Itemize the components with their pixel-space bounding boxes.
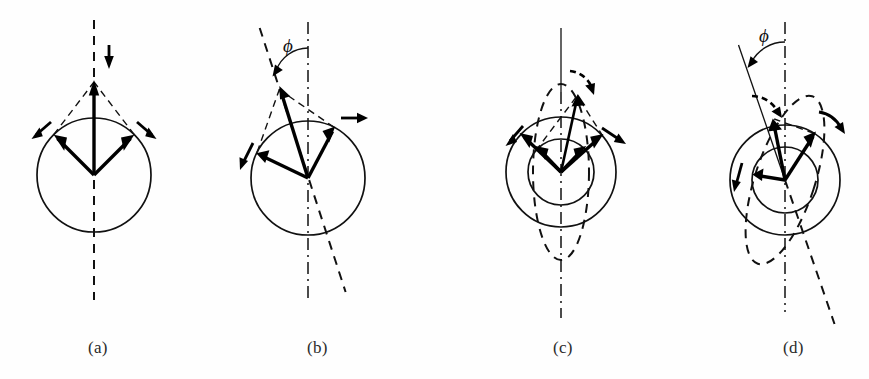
panel-b-phi-angle-label: ϕ	[283, 35, 293, 56]
panel-a	[32, 20, 157, 300]
panel-b-resultant-arrowhead	[279, 86, 290, 100]
panel-b-left-construction-line	[257, 90, 279, 153]
panel-a-right-construction-line	[94, 82, 134, 135]
panel-b-left-component-arrowhead	[256, 150, 269, 163]
panel-b-caption: (b)	[307, 338, 328, 358]
panel-a-left-construction-line	[54, 82, 94, 135]
panel-a-caption: (a)	[88, 338, 108, 358]
vector-model-figure: ϕ	[0, 0, 869, 379]
panel-b-right-component-arrowhead	[323, 127, 336, 143]
panel-d-left-precession-arrowhead	[732, 180, 741, 193]
panel-c-right-precession-arrowhead	[614, 134, 626, 145]
panel-a-resultant-arrowhead	[89, 80, 99, 96]
figure-root: ϕ	[0, 0, 869, 379]
panel-b: ϕ	[240, 22, 369, 300]
panel-d-resultant-precession-arrowhead	[772, 107, 783, 119]
panel-d-caption: (d)	[783, 338, 804, 358]
panel-d: ϕ	[729, 22, 845, 324]
panel-b-left-precession-arrowhead	[240, 157, 249, 170]
panel-d-resultant-precession-arrow	[752, 96, 778, 112]
panel-a-resultant-precession-arrowhead	[104, 56, 114, 69]
panel-d-phi-arc-arrowhead	[748, 56, 759, 68]
panel-c-resultant-precession-arrowhead	[585, 83, 595, 95]
panel-c	[506, 28, 627, 318]
panel-c-caption: (c)	[553, 338, 573, 358]
panel-b-right-precession-arrowhead	[357, 113, 368, 123]
panel-d-phi-angle-label: ϕ	[759, 25, 769, 46]
